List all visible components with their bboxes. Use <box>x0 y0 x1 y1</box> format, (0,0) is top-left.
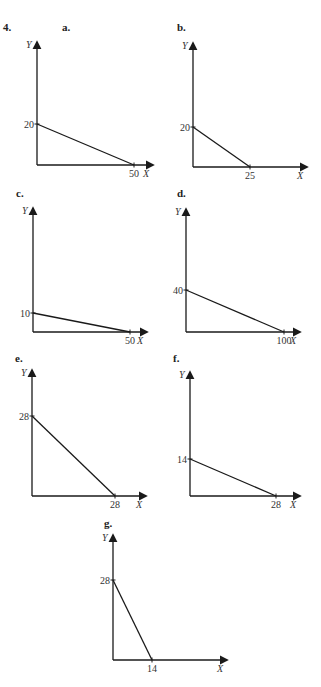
chart-panel-c: c.YX1050 <box>16 187 147 346</box>
x-axis-label: X <box>142 168 150 179</box>
y-axis-label: Y <box>179 369 186 380</box>
x-intercept-label: 25 <box>245 170 255 181</box>
chart-panel-b: b.YX2025 <box>177 21 307 181</box>
y-axis-label: Y <box>22 205 29 216</box>
budget-line <box>113 580 152 660</box>
budget-line <box>190 459 276 496</box>
x-intercept-label: 28 <box>110 499 120 510</box>
budget-line <box>32 416 115 496</box>
budget-line <box>186 290 284 332</box>
y-intercept-label: 20 <box>180 122 190 133</box>
budget-line <box>33 313 130 332</box>
y-axis-label: Y <box>21 367 28 378</box>
y-intercept-label: 10 <box>20 308 30 319</box>
x-axis-label: X <box>296 170 304 181</box>
problem-number: 4. <box>3 21 12 33</box>
chart-panel-d: d.YX40100 <box>173 187 300 346</box>
panel-label: d. <box>177 187 186 199</box>
chart-panel-g: g.YX2814 <box>100 517 227 674</box>
y-intercept-label: 28 <box>100 575 110 586</box>
chart-panel-a: a.YX2050 <box>24 21 153 179</box>
y-intercept-label: 20 <box>24 119 34 130</box>
y-intercept-label: 14 <box>177 454 187 465</box>
panel-label: c. <box>16 187 24 199</box>
panel-label: a. <box>62 21 71 33</box>
x-intercept-label: 50 <box>125 335 135 346</box>
x-axis-label: X <box>289 499 297 510</box>
panel-label: g. <box>104 517 113 529</box>
y-intercept-label: 28 <box>19 411 29 422</box>
chart-panel-f: f.YX1428 <box>173 352 300 510</box>
x-intercept-label: 14 <box>147 663 157 674</box>
x-intercept-label: 100 <box>277 335 292 346</box>
y-axis-label: Y <box>102 532 109 543</box>
y-axis-label: Y <box>182 40 189 51</box>
x-intercept-label: 50 <box>129 168 139 179</box>
budget-line-charts: 4. a.YX2050b.YX2025c.YX1050d.YX40100e.YX… <box>0 0 321 687</box>
x-axis-label: X <box>216 663 224 674</box>
y-axis-label: Y <box>175 206 182 217</box>
budget-line <box>193 127 250 167</box>
y-intercept-label: 40 <box>173 285 183 296</box>
x-intercept-label: 28 <box>271 499 281 510</box>
x-axis-label: X <box>136 335 144 346</box>
panel-label: b. <box>177 21 186 33</box>
chart-panel-e: e.YX2828 <box>15 352 146 510</box>
panel-label: e. <box>15 352 23 364</box>
x-axis-label: X <box>135 499 143 510</box>
panel-label: f. <box>173 352 180 364</box>
y-axis-label: Y <box>26 39 33 50</box>
budget-line <box>37 124 134 165</box>
